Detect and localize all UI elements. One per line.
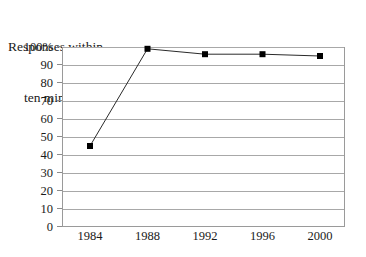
chart-container: Responses within ten minutes 01020304050… (0, 0, 366, 257)
x-axis-labels: 19841988199219962000 (0, 0, 366, 257)
x-axis-tick-label: 2000 (308, 230, 333, 243)
x-axis-tick-label: 1992 (193, 230, 218, 243)
x-axis-tick-label: 1988 (135, 230, 160, 243)
x-axis-tick-label: 1984 (78, 230, 103, 243)
x-axis-tick-label: 1996 (250, 230, 275, 243)
